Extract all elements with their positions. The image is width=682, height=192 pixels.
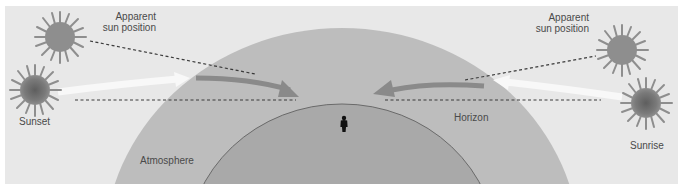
sunset-label: Sunset — [19, 116, 50, 127]
apparent-sun-label-left: Apparent sun position — [92, 11, 156, 33]
apparent-label-right-line2: sun position — [525, 23, 589, 34]
apparent-label-left-line2: sun position — [92, 22, 156, 33]
atmosphere-label: Atmosphere — [140, 155, 194, 166]
apparent-sun-label-right: Apparent sun position — [525, 12, 589, 34]
apparent-label-right-line1: Apparent — [525, 12, 589, 23]
refraction-diagram: Apparent sun position Apparent sun posit… — [0, 0, 682, 192]
apparent-label-left-line1: Apparent — [92, 11, 156, 22]
sunrise-label: Sunrise — [630, 140, 664, 151]
horizon-label: Horizon — [454, 112, 488, 123]
